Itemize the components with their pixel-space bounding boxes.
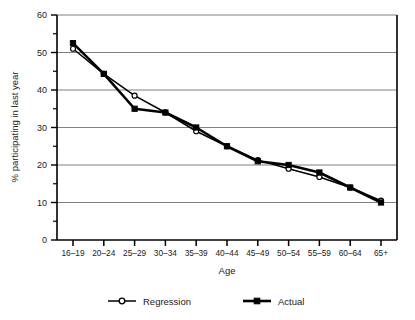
data-point-actual-4: [194, 125, 199, 130]
data-point-actual-10: [378, 200, 383, 205]
x-tick-label-4: 35–39: [185, 248, 208, 258]
y-axis-title: % participating in last year: [9, 72, 20, 183]
legend-marker-open-circle: [119, 298, 125, 304]
y-tick-label-30: 30: [37, 123, 47, 133]
x-axis-title: Age: [219, 265, 236, 276]
chart-figure: 0102030405060 16–1920–2425–2930–3435–394…: [0, 0, 415, 320]
x-tick-label-1: 20–24: [92, 248, 115, 258]
data-point-actual-0: [70, 41, 75, 46]
data-point-actual-3: [163, 110, 168, 115]
x-tick-label-7: 50–54: [277, 248, 300, 258]
x-tick-label-8: 55–59: [308, 248, 331, 258]
x-tick-label-6: 45–49: [246, 248, 269, 258]
x-tick-label-10: 65+: [374, 248, 388, 258]
chart-background: [0, 0, 415, 320]
x-tick-labels: 16–1920–2425–2930–3435–3940–4445–4950–54…: [61, 248, 388, 258]
data-point-actual-8: [317, 170, 322, 175]
line-chart: 0102030405060 16–1920–2425–2930–3435–394…: [0, 0, 415, 320]
data-point-actual-9: [348, 185, 353, 190]
y-tick-label-20: 20: [37, 160, 47, 170]
y-tick-label-0: 0: [42, 235, 47, 245]
x-tick-label-5: 40–44: [215, 248, 238, 258]
data-point-regression-2: [132, 93, 137, 98]
x-tick-label-2: 25–29: [123, 248, 146, 258]
data-point-actual-5: [224, 144, 229, 149]
data-point-actual-1: [101, 71, 106, 76]
data-point-actual-6: [255, 159, 260, 164]
legend-label-actual: Actual: [278, 296, 304, 307]
y-tick-label-60: 60: [37, 10, 47, 20]
legend-marker-filled-square: [254, 298, 260, 304]
data-point-regression-0: [71, 46, 76, 51]
data-point-actual-7: [286, 162, 291, 167]
legend-label-regression: Regression: [143, 296, 191, 307]
x-tick-label-9: 60–64: [339, 248, 362, 258]
y-tick-label-10: 10: [37, 198, 47, 208]
y-tick-label-40: 40: [37, 85, 47, 95]
data-point-actual-2: [132, 106, 137, 111]
y-tick-label-50: 50: [37, 48, 47, 58]
x-tick-label-3: 30–34: [154, 248, 177, 258]
x-tick-label-0: 16–19: [61, 248, 84, 258]
